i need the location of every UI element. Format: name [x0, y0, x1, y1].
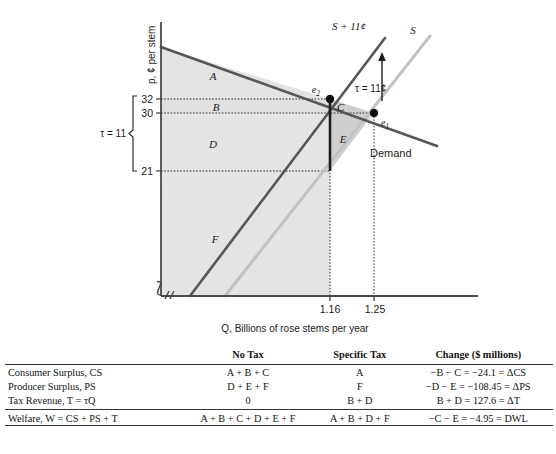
- y-axis-title: p, ¢ per stem: [146, 26, 157, 84]
- region-label-D: D: [208, 138, 217, 150]
- x-tick-label-116: 1.16: [320, 303, 341, 315]
- row-label-welfare: Welfare, W = CS + PS + T: [5, 409, 180, 426]
- x-tick-label-125: 1.25: [365, 303, 386, 315]
- table-header-no-tax: No Tax: [180, 348, 316, 365]
- e1-sub: 1: [385, 122, 389, 131]
- table-row-welfare: Welfare, W = CS + PS + T A + B + C + D +…: [5, 409, 553, 426]
- supply-demand-chart: p, ¢ per stem 32 30 21 τ = 11 1.16 1.25 …: [0, 0, 556, 336]
- cell-tr-no-tax: 0: [180, 393, 316, 409]
- cell-cs-specific-tax: A: [316, 365, 404, 380]
- region-label-B: B: [213, 101, 220, 113]
- table-row: Consumer Surplus, CS A + B + C A −B − C …: [5, 365, 553, 380]
- cell-ps-change: −D − E = −108.45 = ΔPS: [404, 379, 553, 393]
- tau-arrow-head: [378, 52, 386, 61]
- region-label-F: F: [211, 233, 219, 245]
- tau-bracket: [129, 96, 137, 171]
- table-bottom-rule: [5, 426, 553, 427]
- x-axis-title: Q, Billions of rose stems per year: [221, 323, 369, 334]
- cell-cs-no-tax: A + B + C: [180, 365, 316, 380]
- region-label-E: E: [339, 133, 347, 145]
- cell-ps-specific-tax: F: [316, 379, 404, 393]
- cell-tr-specific-tax: B + D: [316, 393, 404, 409]
- region-B-shape: [161, 99, 330, 113]
- cell-w-specific-tax: A + B + D + F: [316, 409, 404, 426]
- tau-bracket-label: τ = 11: [100, 128, 126, 139]
- welfare-table-panel: No Tax Specific Tax Change ($ millions) …: [0, 336, 556, 454]
- chart-svg: p, ¢ per stem 32 30 21 τ = 11 1.16 1.25 …: [0, 0, 556, 336]
- row-label-consumer-surplus: Consumer Surplus, CS: [5, 365, 180, 380]
- bottom-rule-cell: [404, 426, 553, 427]
- table-row: Tax Revenue, T = τQ 0 B + D B + D = 127.…: [5, 393, 553, 409]
- cell-ps-no-tax: D + E + F: [180, 379, 316, 393]
- table-header-blank: [5, 348, 180, 365]
- y-tick-label-21: 21: [141, 165, 153, 177]
- e2-sub: 2: [316, 89, 320, 98]
- bottom-rule-cell: [5, 426, 180, 427]
- cell-w-no-tax: A + B + C + D + E + F: [180, 409, 316, 426]
- y-tick-label-30: 30: [141, 107, 153, 119]
- bottom-rule-cell: [180, 426, 316, 427]
- table-header-row: No Tax Specific Tax Change ($ millions): [5, 348, 553, 365]
- bottom-rule-cell: [316, 426, 404, 427]
- region-D-shape: [161, 113, 330, 171]
- row-label-producer-surplus: Producer Surplus, PS: [5, 379, 180, 393]
- cell-cs-change: −B − C = −24.1 = ΔCS: [404, 365, 553, 380]
- region-label-A: A: [209, 70, 217, 82]
- equilibrium-point-e2: [326, 95, 334, 103]
- table-row: Producer Surplus, PS D + E + F F −D − E …: [5, 379, 553, 393]
- welfare-table: No Tax Specific Tax Change ($ millions) …: [5, 348, 553, 426]
- row-label-tax-revenue: Tax Revenue, T = τQ: [5, 393, 180, 409]
- cell-tr-change: B + D = 127.6 = ΔT: [404, 393, 553, 409]
- supply-with-tax-label: S + 11¢: [332, 20, 367, 32]
- tau-arrow-label: τ = 11¢: [355, 83, 386, 94]
- equilibrium-point-e1: [370, 109, 378, 117]
- table-header-change: Change ($ millions): [404, 348, 553, 365]
- y-tick-label-32: 32: [141, 93, 153, 105]
- equilibrium-label-e1: e1: [381, 117, 389, 131]
- demand-label: Demand: [370, 147, 412, 159]
- cell-w-change: −C − E = −4.95 = DWL: [404, 409, 553, 426]
- region-label-C: C: [337, 101, 345, 113]
- table-header-specific-tax: Specific Tax: [316, 348, 404, 365]
- supply-label: S: [410, 24, 416, 36]
- figure-root: p, ¢ per stem 32 30 21 τ = 11 1.16 1.25 …: [0, 0, 556, 454]
